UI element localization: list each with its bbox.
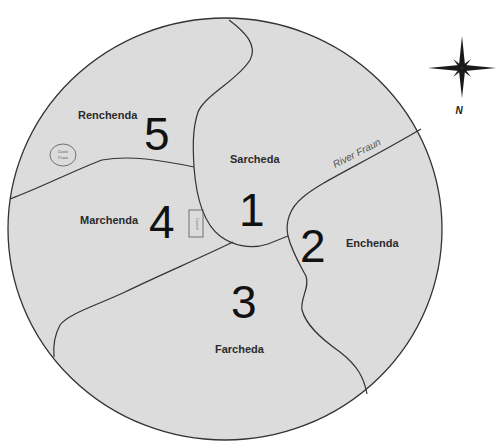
- region-number-3: 3: [231, 276, 257, 328]
- region-label-farcheda: Farcheda: [215, 343, 265, 355]
- north-label: N: [455, 105, 463, 116]
- region-label-renchenda: Renchenda: [78, 109, 138, 121]
- castle-label-line2: Fraun: [57, 155, 68, 160]
- region-number-2: 2: [300, 220, 326, 272]
- region-number-5: 5: [144, 108, 170, 160]
- region-map: 5 1 4 2 3 Renchenda Sarcheda Marchenda E…: [0, 0, 504, 447]
- council-label: Council: [195, 218, 200, 232]
- region-label-sarcheda: Sarcheda: [230, 153, 280, 165]
- region-number-4: 4: [149, 196, 175, 248]
- region-number-1: 1: [239, 184, 265, 236]
- castle-label-line1: Castle: [58, 149, 68, 154]
- land-circle: [8, 18, 442, 440]
- compass-rose-icon: [428, 36, 496, 98]
- region-label-enchenda: Enchenda: [346, 237, 399, 249]
- region-label-marchenda: Marchenda: [80, 214, 139, 226]
